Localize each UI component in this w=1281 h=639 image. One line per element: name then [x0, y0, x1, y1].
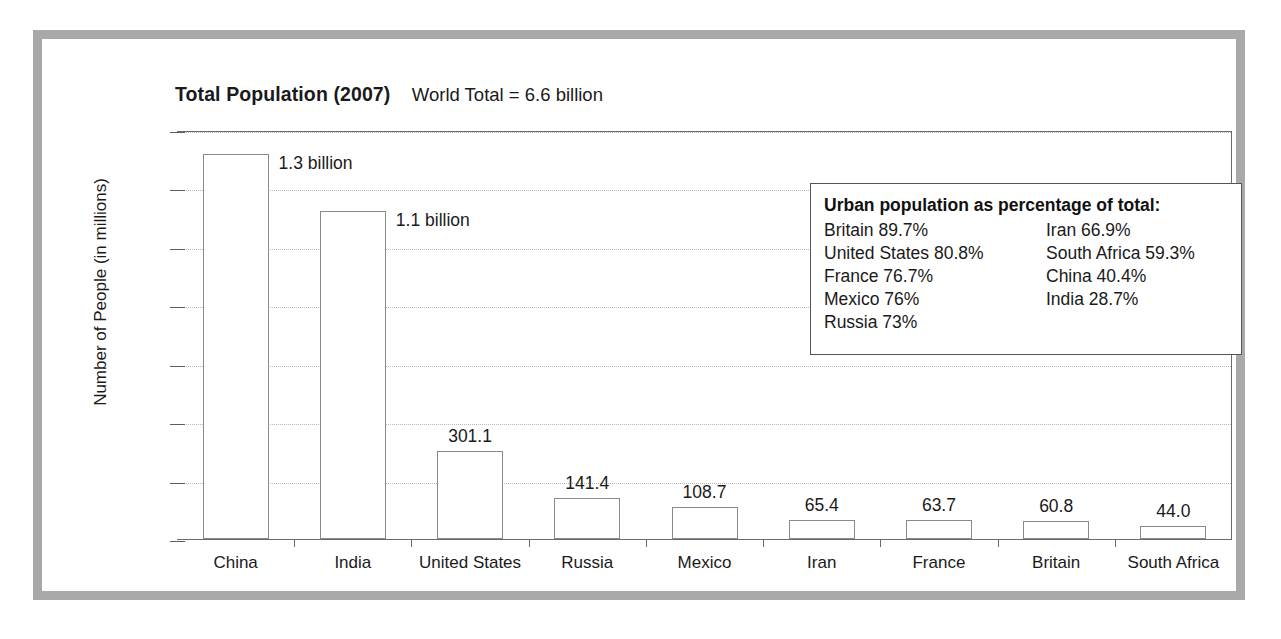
y-tick-mark [170, 249, 185, 250]
legend-entry: United States 80.8% [824, 242, 1046, 265]
legend-column-left: Britain 89.7%United States 80.8%France 7… [824, 219, 1046, 334]
x-axis-category-label: China [213, 553, 257, 573]
x-axis-category-label: India [334, 553, 371, 573]
y-tick-mark [170, 541, 185, 542]
bar[interactable] [1023, 521, 1089, 539]
y-tick-mark [170, 190, 185, 191]
legend-entry: Britain 89.7% [824, 219, 1046, 242]
bar-value-label: 1.3 billion [279, 153, 353, 174]
chart-subtitle: World Total = 6.6 billion [412, 84, 603, 105]
bar[interactable] [1140, 526, 1206, 539]
y-axis-title: Number of People (in millions) [91, 127, 111, 457]
bar[interactable] [906, 520, 972, 539]
bar-value-label: 1.1 billion [396, 210, 470, 231]
y-tick-mark [170, 424, 185, 425]
x-tick-mark [763, 539, 764, 547]
legend-entry: South Africa 59.3% [1046, 242, 1195, 265]
bar[interactable] [672, 507, 738, 539]
legend-column-right: Iran 66.9%South Africa 59.3%China 40.4%I… [1046, 219, 1195, 334]
x-tick-mark [998, 539, 999, 547]
x-tick-mark [411, 539, 412, 547]
bar[interactable] [320, 211, 386, 539]
legend-entry: Iran 66.9% [1046, 219, 1195, 242]
legend-entry: China 40.4% [1046, 265, 1195, 288]
legend-entry: France 76.7% [824, 265, 1046, 288]
legend-title: Urban population as percentage of total: [824, 195, 1241, 216]
x-axis-category-label: Russia [561, 553, 613, 573]
y-tick-mark [170, 483, 185, 484]
bar-value-label: 44.0 [1156, 501, 1190, 522]
bar-value-label: 65.4 [805, 495, 839, 516]
bar[interactable] [789, 520, 855, 539]
page-title: Total Population (2007) [175, 83, 390, 105]
legend-entry: Russia 73% [824, 311, 1046, 334]
legend-entry: India 28.7% [1046, 288, 1195, 311]
legend-box: Urban population as percentage of total:… [810, 183, 1242, 355]
chart-header: Total Population (2007) World Total = 6.… [175, 83, 603, 106]
gridline [177, 132, 1231, 133]
bar[interactable] [203, 154, 269, 539]
x-axis-category-label: Iran [807, 553, 836, 573]
legend-entry: Mexico 76% [824, 288, 1046, 311]
x-tick-mark [646, 539, 647, 547]
x-tick-mark [880, 539, 881, 547]
bar-value-label: 63.7 [922, 495, 956, 516]
x-axis-category-label: Britain [1032, 553, 1080, 573]
x-axis-category-label: Mexico [678, 553, 732, 573]
y-tick-mark [170, 132, 185, 133]
bar-value-label: 60.8 [1039, 496, 1073, 517]
x-tick-mark [529, 539, 530, 547]
bar-value-label: 301.1 [448, 426, 492, 447]
bar-value-label: 141.4 [565, 473, 609, 494]
bar-value-label: 108.7 [683, 482, 727, 503]
x-tick-mark [1115, 539, 1116, 547]
plot-area: 02004006008001,0001,2001,400 1.3 billion… [177, 131, 1232, 540]
x-axis-category-label: United States [419, 553, 521, 573]
figure-frame: Total Population (2007) World Total = 6.… [33, 30, 1245, 600]
y-tick-mark [170, 366, 185, 367]
x-tick-mark [294, 539, 295, 547]
bar[interactable] [554, 498, 620, 539]
bar[interactable] [437, 451, 503, 539]
figure-inner: Total Population (2007) World Total = 6.… [42, 39, 1236, 591]
x-axis-category-label: South Africa [1128, 553, 1220, 573]
x-axis-category-label: France [912, 553, 965, 573]
y-tick-mark [170, 307, 185, 308]
legend-columns: Britain 89.7%United States 80.8%France 7… [824, 219, 1241, 334]
